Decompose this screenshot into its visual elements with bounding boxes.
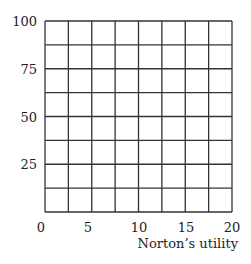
x-tick-0: 0 xyxy=(37,220,45,235)
x-tick-15: 15 xyxy=(178,220,195,235)
x-tick-labels: 0 5 10 15 20 xyxy=(37,220,240,235)
y-tick-75: 75 xyxy=(20,62,37,77)
y-tick-25: 25 xyxy=(20,157,37,172)
x-tick-10: 10 xyxy=(131,220,148,235)
x-tick-20: 20 xyxy=(224,220,241,235)
y-tick-labels: 100 75 50 25 xyxy=(12,14,37,172)
x-axis-title: Norton’s utility xyxy=(138,236,239,251)
y-tick-100: 100 xyxy=(12,14,37,29)
x-tick-5: 5 xyxy=(84,220,92,235)
y-tick-50: 50 xyxy=(20,110,37,125)
grid-lines xyxy=(45,21,232,212)
chart-canvas: 100 75 50 25 0 5 10 15 20 Norton’s utili… xyxy=(0,0,251,264)
